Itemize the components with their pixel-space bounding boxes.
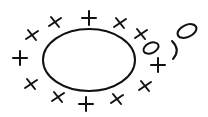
- plus-mark-icon: [79, 97, 93, 111]
- upper-right-glyphs: [142, 21, 199, 59]
- plus-mark-icon: [82, 11, 96, 25]
- cross-mark-icon: [139, 81, 151, 91]
- cross-mark-icon: [26, 30, 38, 40]
- plus-mark-icon: [151, 58, 165, 72]
- cross-mark-icon: [25, 79, 37, 89]
- cross-mark-icon: [135, 29, 147, 39]
- ellipse-ring-diagram: [0, 0, 208, 117]
- cross-mark-icon: [114, 18, 126, 28]
- paren-stroke-icon: [172, 41, 177, 59]
- diagram-canvas: [0, 0, 208, 117]
- ring-of-marks: [13, 11, 165, 111]
- central-ellipse: [43, 29, 135, 91]
- cross-mark-icon: [111, 94, 123, 104]
- small-loop-icon: [142, 40, 161, 56]
- plus-mark-icon: [13, 51, 27, 65]
- small-loop-icon: [175, 21, 198, 40]
- cross-mark-icon: [49, 17, 61, 27]
- cross-mark-icon: [52, 92, 64, 102]
